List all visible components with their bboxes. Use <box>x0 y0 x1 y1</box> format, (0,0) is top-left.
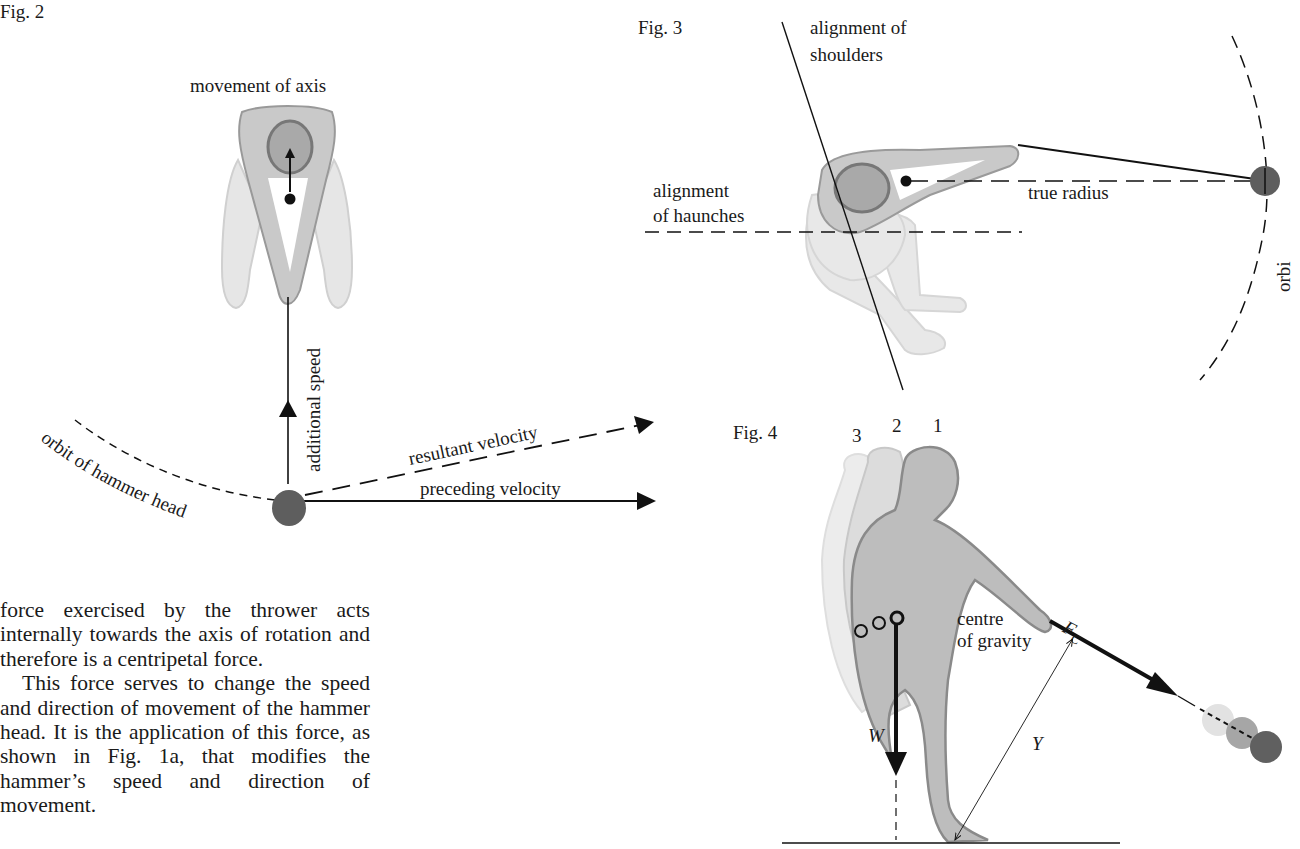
preceding-velocity-label: preceding velocity <box>420 478 561 499</box>
fig4-label: Fig. 4 <box>733 422 778 443</box>
cable-continuation <box>1178 696 1195 706</box>
position-3-label: 3 <box>852 425 862 446</box>
figure-4: Fig. 4 3 2 1 centre of gravity W FC <box>733 415 1282 843</box>
figure-2: Fig. 2 movement of axis additional speed… <box>0 1 656 538</box>
body-paragraph-2: This force serves to change the speed an… <box>0 671 370 817</box>
orbit-of-hammer-head-label: orbit of hammer head <box>37 427 190 522</box>
lever-arm-y-line <box>955 640 1072 840</box>
hammer-position-1-icon <box>1250 731 1282 763</box>
centripetal-force-label: FC <box>1057 616 1088 648</box>
alignment-of-shoulders-label-line1: alignment of <box>810 17 907 38</box>
true-radius-label: true radius <box>1028 182 1109 203</box>
resultant-velocity-label: resultant velocity <box>406 421 539 469</box>
weight-arrowhead-icon <box>885 752 907 776</box>
body-paragraph-1: force exercised by the thrower acts inte… <box>0 598 370 671</box>
orbit-arc <box>75 420 275 500</box>
resultant-velocity-arrowhead-icon <box>634 416 654 434</box>
thrower-top-view-icon <box>222 106 352 308</box>
axis-point-icon <box>285 194 296 205</box>
orbit-arc <box>1200 36 1267 380</box>
centre-of-gravity-label-line2: of gravity <box>957 630 1032 651</box>
hammer-cable-line <box>1018 145 1262 180</box>
position-2-label: 2 <box>892 415 902 436</box>
weight-label: W <box>868 725 886 746</box>
movement-of-axis-label: movement of axis <box>190 75 326 96</box>
preceding-velocity-arrowhead-icon <box>637 492 656 510</box>
alignment-of-haunches-label-line2: of haunches <box>653 205 744 226</box>
alignment-of-haunches-label-line1: alignment <box>653 180 730 201</box>
axis-point-icon <box>901 176 912 187</box>
centripetal-force-arrowhead-icon <box>1146 672 1178 696</box>
hammer-head-icon <box>272 490 306 526</box>
fig3-label: Fig. 3 <box>638 17 682 38</box>
body-text: force exercised by the thrower acts inte… <box>0 598 370 818</box>
orbit-partial-label: orbi <box>1273 261 1294 292</box>
additional-speed-label: additional speed <box>303 348 324 472</box>
additional-speed-arrowhead-icon <box>279 400 297 417</box>
lever-arm-y-label: Y <box>1032 733 1045 754</box>
figure-3: Fig. 3 alignment of shoulders alignment … <box>638 17 1294 390</box>
alignment-of-shoulders-label-line2: shoulders <box>810 44 883 65</box>
thrower-crouched-icon <box>806 146 1018 354</box>
fig2-label: Fig. 2 <box>0 1 44 22</box>
position-1-label: 1 <box>933 415 943 436</box>
centre-of-gravity-label-line1: centre <box>957 608 1003 629</box>
